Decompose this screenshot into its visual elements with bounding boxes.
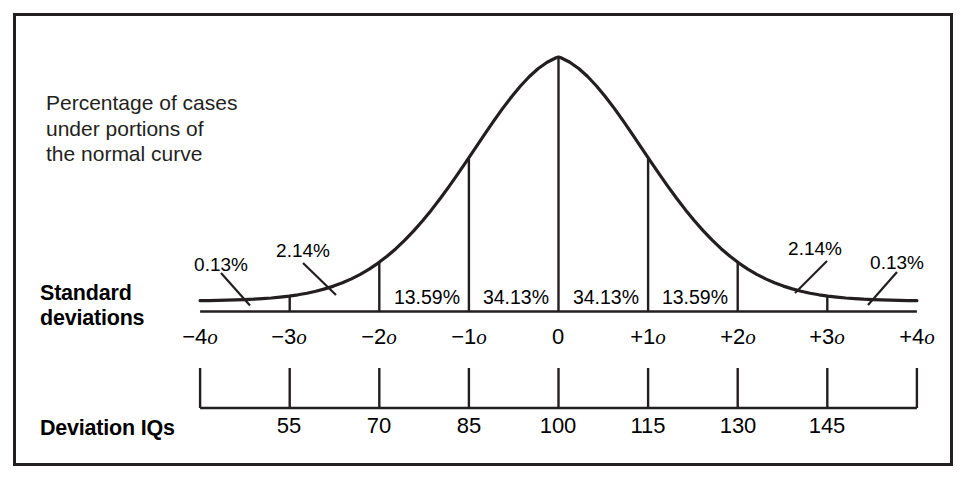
- sigma-tick-label-minus4: −4o: [160, 324, 240, 351]
- percent-label-minus1-mean: 34.13%: [473, 286, 559, 310]
- sigma-tick-label-plus2: +2o: [698, 324, 778, 351]
- percent-callout-plus2-plus3: 2.14%: [770, 237, 860, 260]
- normal-curve-figure: Percentage of casesunder portions ofthe …: [0, 0, 970, 482]
- sigma-tick-label-minus3: −3o: [249, 324, 329, 351]
- iq-tick-label-145: 145: [787, 413, 867, 440]
- sigma-tick-label-plus1: +1o: [608, 324, 688, 351]
- percent-label-minus2-minus1: 13.59%: [384, 286, 470, 310]
- percent-callout-plus3-plus4: 0.13%: [852, 251, 942, 274]
- deviation-iqs-axis-title: Deviation IQs: [40, 415, 175, 441]
- sigma-tick-label-plus4: +4o: [877, 324, 957, 351]
- sigma-tick-label-mean: 0: [518, 324, 598, 351]
- iq-tick-label-115: 115: [608, 413, 688, 440]
- percent-label-plus1-plus2: 13.59%: [652, 286, 738, 310]
- iq-tick-label-70: 70: [339, 413, 419, 440]
- percent-callout-minus4-minus3: 0.13%: [176, 253, 266, 276]
- leader-right-214: [795, 261, 827, 293]
- figure-caption: Percentage of casesunder portions ofthe …: [46, 90, 237, 167]
- standard-deviations-axis-title: Standarddeviations: [40, 281, 144, 332]
- iq-tick-label-100: 100: [518, 413, 598, 440]
- percent-callout-minus3-minus2: 2.14%: [258, 239, 348, 262]
- iq-tick-label-85: 85: [429, 413, 509, 440]
- percent-label-mean-plus1: 34.13%: [563, 286, 649, 310]
- sigma-tick-label-plus3: +3o: [787, 324, 867, 351]
- iq-tick-label-130: 130: [698, 413, 778, 440]
- sigma-tick-label-minus2: −2o: [339, 324, 419, 351]
- iq-tick-label-55: 55: [249, 413, 329, 440]
- sigma-tick-label-minus1: −1o: [429, 324, 509, 351]
